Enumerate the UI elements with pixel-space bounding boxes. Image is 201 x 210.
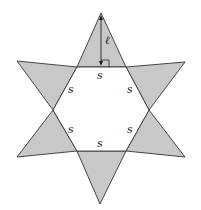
side-label-bottom-right: s xyxy=(127,123,133,136)
height-label: ℓ xyxy=(105,34,110,47)
side-label-bottom: s xyxy=(97,137,103,150)
side-label-top: s xyxy=(97,69,103,82)
side-label-top-left: s xyxy=(68,83,74,96)
hexagram-diagram: ℓ s s s s s s xyxy=(0,0,201,210)
side-label-bottom-left: s xyxy=(68,123,74,136)
triangle-bottom xyxy=(77,151,126,204)
side-label-top-right: s xyxy=(127,83,133,96)
triangle-top xyxy=(77,13,126,67)
